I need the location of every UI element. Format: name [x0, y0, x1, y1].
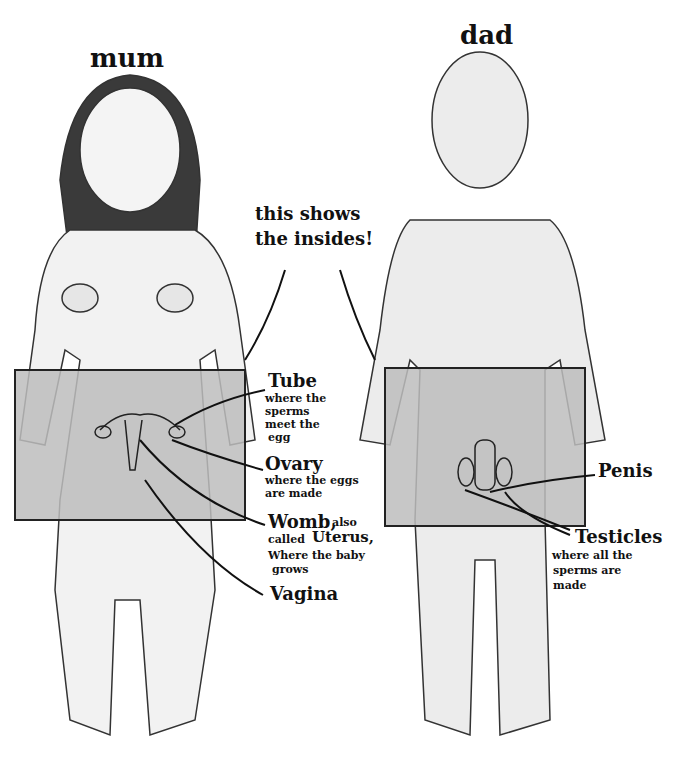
penis-label: Penis — [598, 462, 653, 481]
callout-line1: this shows — [255, 205, 361, 224]
vagina-label: Vagina — [270, 585, 338, 604]
callout-line2: the insides! — [255, 230, 373, 249]
mum-inside-panel — [15, 370, 245, 520]
dad-title: dad — [460, 22, 513, 49]
mum-title: mum — [90, 45, 164, 72]
illustration — [0, 0, 679, 768]
dad-inside-panel — [385, 368, 585, 526]
